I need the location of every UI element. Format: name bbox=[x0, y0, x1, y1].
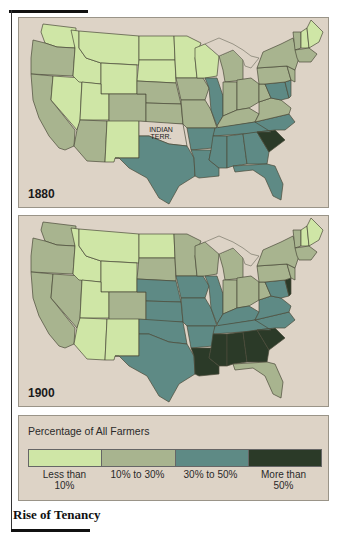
state-az bbox=[74, 318, 107, 360]
state-ia bbox=[176, 276, 209, 298]
legend-title: Percentage of All Farmers bbox=[28, 425, 149, 437]
state-co bbox=[109, 94, 146, 122]
state-ks bbox=[146, 103, 183, 124]
state-ne_eng bbox=[295, 246, 317, 260]
state-ks bbox=[146, 301, 183, 322]
state-sd bbox=[137, 258, 176, 281]
state-co bbox=[109, 292, 146, 320]
legend-label-line: More than bbox=[247, 469, 320, 480]
legend-swatch-more-than-50 bbox=[249, 450, 321, 466]
state-nm bbox=[105, 121, 139, 162]
legend-label-more-than-50: More than 50% bbox=[247, 469, 320, 491]
state-az bbox=[74, 120, 107, 162]
state-ny bbox=[257, 38, 299, 70]
figure-caption: Rise of Tenancy bbox=[13, 507, 100, 523]
state-ar bbox=[187, 326, 215, 348]
legend-label-line: 10% to 30% bbox=[101, 469, 174, 480]
map-panel-1880: INDIANTERR. 1880 bbox=[18, 17, 329, 208]
map-panel-1900: 1900 bbox=[18, 215, 329, 407]
state-fl bbox=[233, 164, 283, 200]
state-ia bbox=[176, 78, 209, 100]
state-me bbox=[307, 20, 323, 48]
legend-swatch-10-to-30 bbox=[102, 450, 175, 466]
bottom-rule bbox=[11, 529, 90, 532]
legend-label-line: Less than bbox=[28, 469, 101, 480]
state-pa bbox=[257, 66, 291, 84]
legend-label-30-to-50: 30% to 50% bbox=[174, 469, 247, 491]
legend-label-line: 30% to 50% bbox=[174, 469, 247, 480]
legend-label-line: 10% bbox=[28, 480, 101, 491]
state-sd bbox=[137, 60, 176, 83]
state-nd bbox=[139, 234, 175, 258]
territory-label: TERR. bbox=[151, 133, 172, 140]
legend-label-line: 50% bbox=[247, 480, 320, 491]
legend-swatch-less-than-10 bbox=[29, 450, 102, 466]
legend-label-less-than-10: Less than 10% bbox=[28, 469, 101, 491]
state-nm bbox=[105, 319, 139, 360]
state-fl bbox=[233, 362, 283, 398]
state-ny bbox=[257, 236, 299, 268]
legend-color-bar bbox=[28, 449, 322, 467]
state-me bbox=[307, 218, 323, 246]
state-ne_eng bbox=[295, 48, 317, 62]
legend-swatch-30-to-50 bbox=[176, 450, 249, 466]
state-oh bbox=[237, 78, 259, 110]
map-year-label: 1880 bbox=[28, 187, 55, 201]
left-rule bbox=[11, 10, 12, 531]
top-rule bbox=[9, 10, 88, 13]
state-wy bbox=[101, 261, 137, 292]
state-ar bbox=[187, 128, 215, 150]
map-year-label: 1900 bbox=[28, 386, 55, 400]
state-wy bbox=[101, 63, 137, 94]
legend-label-10-to-30: 10% to 30% bbox=[101, 469, 174, 491]
us-map-1880: INDIANTERR. bbox=[19, 18, 330, 209]
us-map-1900 bbox=[19, 216, 330, 407]
state-pa bbox=[257, 264, 291, 282]
territory-label: INDIAN bbox=[149, 126, 173, 133]
legend-labels: Less than 10% 10% to 30% 30% to 50% More… bbox=[28, 469, 320, 491]
state-nd bbox=[139, 36, 175, 60]
legend-panel: Percentage of All Farmers Less than 10% … bbox=[18, 415, 329, 501]
state-oh bbox=[237, 276, 259, 308]
